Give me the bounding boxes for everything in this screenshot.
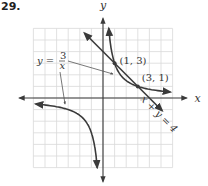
y-axis-label: y xyxy=(99,0,107,12)
hyperbola-label-denominator: x xyxy=(60,60,66,71)
intersection-point xyxy=(113,61,117,65)
intersection-point xyxy=(136,84,140,88)
point-label-3-1: (3, 1) xyxy=(142,72,169,83)
point-label-1-3: (1, 3) xyxy=(120,55,147,66)
line-label: x + y = 4 xyxy=(139,93,180,134)
graph: xy (1, 3)(3, 1)y =3xx + y = 4 xyxy=(0,0,208,186)
hyperbola-label: y =3x xyxy=(36,50,66,71)
x-axis-label: x xyxy=(195,92,202,105)
hyperbola-label-lhs: y = xyxy=(36,55,54,66)
leader-arrow-left xyxy=(60,72,65,104)
